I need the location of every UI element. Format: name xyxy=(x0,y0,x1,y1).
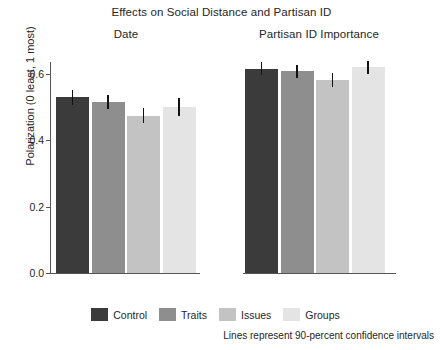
chart-container: Effects on Social Distance and Partisan … xyxy=(0,0,443,350)
confidence-interval-note: Lines represent 90-percent confidence in… xyxy=(0,330,434,341)
legend-item-issues[interactable]: Issues xyxy=(219,308,271,321)
plot-area: 0.00.20.40.6 xyxy=(0,0,443,350)
error-bar-groups xyxy=(367,61,369,75)
legend-swatch-icon xyxy=(159,308,176,321)
y-tick-label: 0.6 xyxy=(18,69,44,80)
y-tick-label: 0.2 xyxy=(18,202,44,213)
y-tick-mark xyxy=(46,273,50,274)
error-bar-groups xyxy=(178,98,180,116)
x-axis-spine-left xyxy=(50,273,200,274)
legend-item-control[interactable]: Control xyxy=(91,308,147,321)
y-tick-mark xyxy=(46,140,50,141)
error-bar-traits xyxy=(107,95,109,109)
bar-groups-partisan-id-importance xyxy=(352,67,385,273)
error-bar-control xyxy=(72,90,74,105)
legend: ControlTraitsIssuesGroups xyxy=(0,308,443,321)
y-tick-label: 0.4 xyxy=(18,135,44,146)
bar-traits-partisan-id-importance xyxy=(281,71,314,273)
y-tick-mark xyxy=(46,207,50,208)
legend-swatch-icon xyxy=(91,308,108,321)
error-bar-issues xyxy=(332,73,334,87)
legend-swatch-icon xyxy=(283,308,300,321)
legend-swatch-icon xyxy=(219,308,236,321)
bar-control-date xyxy=(56,97,89,273)
bar-issues-date xyxy=(127,116,160,273)
legend-label: Groups xyxy=(305,309,339,321)
legend-label: Issues xyxy=(241,309,271,321)
legend-label: Control xyxy=(113,309,147,321)
y-tick-mark xyxy=(46,74,50,75)
bar-issues-partisan-id-importance xyxy=(316,80,349,273)
x-axis-spine-right xyxy=(243,273,396,274)
error-bar-issues xyxy=(143,108,145,123)
y-axis-spine xyxy=(50,62,51,274)
legend-label: Traits xyxy=(181,309,207,321)
legend-item-groups[interactable]: Groups xyxy=(283,308,339,321)
error-bar-control xyxy=(261,62,263,75)
bar-traits-date xyxy=(92,102,125,273)
y-tick-label: 0.0 xyxy=(18,268,44,279)
error-bar-traits xyxy=(296,65,298,78)
legend-item-traits[interactable]: Traits xyxy=(159,308,207,321)
bar-control-partisan-id-importance xyxy=(245,69,278,273)
bar-groups-date xyxy=(163,107,196,273)
